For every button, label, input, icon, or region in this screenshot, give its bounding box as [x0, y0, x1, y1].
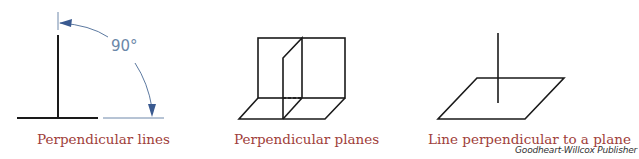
perpendicular-planes-figure — [239, 38, 345, 119]
line-plane-figure — [438, 33, 564, 119]
caption-perpendicular-lines: Perpendicular lines — [37, 131, 170, 147]
caption-perpendicular-planes: Perpendicular planes — [234, 131, 379, 147]
publisher-credit: Goodheart-Willcox Publisher — [515, 145, 637, 155]
angle-label: 90° — [111, 37, 138, 55]
perpendicular-lines-figure — [17, 12, 164, 118]
